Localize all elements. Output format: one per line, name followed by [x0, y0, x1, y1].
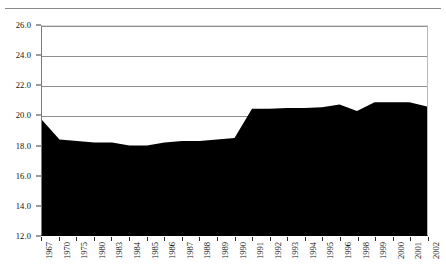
x-tick-label: 2000	[397, 242, 406, 259]
x-tick-mark	[199, 237, 200, 241]
x-tick-mark	[59, 237, 60, 241]
x-tick-label: 1995	[326, 242, 335, 259]
y-tick-label: 18.0	[16, 141, 31, 150]
y-tick-label: 14.0	[16, 201, 31, 210]
x-tick-label: 1998	[362, 242, 371, 259]
x-tick-mark	[287, 237, 288, 241]
x-tick-mark	[76, 237, 77, 241]
y-tick-label: 20.0	[16, 111, 31, 120]
x-tick-mark	[410, 237, 411, 241]
x-tick-label: 1984	[133, 242, 142, 259]
x-tick-label: 1987	[186, 242, 195, 259]
x-tick-mark	[322, 237, 323, 241]
x-tick-label: 1992	[274, 242, 283, 259]
x-tick-label: 1988	[203, 242, 212, 259]
x-tick-mark	[393, 237, 394, 241]
x-tick-mark	[270, 237, 271, 241]
x-tick-label: 1985	[151, 242, 160, 259]
x-tick-label: 1986	[168, 242, 177, 259]
y-tick-label: 22.0	[16, 81, 31, 90]
x-tick-label: 1967	[45, 242, 54, 259]
x-tick-mark	[129, 237, 130, 241]
x-tick-mark	[182, 237, 183, 241]
x-tick-mark	[375, 237, 376, 241]
x-tick-label: 1983	[115, 242, 124, 259]
x-tick-label: 1993	[291, 242, 300, 259]
x-tick-mark	[428, 237, 429, 241]
x-tick-label: 1991	[256, 242, 265, 259]
x-tick-mark	[164, 237, 165, 241]
x-tick-label: 1996	[344, 242, 353, 259]
x-tick-mark	[305, 237, 306, 241]
x-tick-mark	[340, 237, 341, 241]
y-tick-label: 12.0	[16, 232, 31, 241]
x-tick-label: 2001	[414, 242, 423, 259]
x-tick-label: 2002	[432, 242, 441, 259]
x-tick-mark	[217, 237, 218, 241]
y-axis: 12.014.016.018.020.022.024.026.0	[0, 25, 38, 236]
x-tick-label: 1999	[379, 242, 388, 259]
x-tick-mark	[94, 237, 95, 241]
x-tick-mark	[358, 237, 359, 241]
x-tick-label: 1994	[309, 242, 318, 259]
x-tick-mark	[147, 237, 148, 241]
y-tick-label: 26.0	[16, 21, 31, 30]
x-tick-label: 1975	[80, 242, 89, 259]
x-tick-label: 1970	[63, 242, 72, 259]
x-tick-mark	[111, 237, 112, 241]
x-tick-label: 1990	[239, 242, 248, 259]
top-divider-rule	[5, 8, 441, 9]
x-tick-mark	[252, 237, 253, 241]
x-tick-label: 1989	[221, 242, 230, 259]
x-tick-mark	[235, 237, 236, 241]
plot-area	[41, 25, 428, 236]
x-tick-mark	[41, 237, 42, 241]
y-tick-label: 16.0	[16, 171, 31, 180]
y-tick-label: 24.0	[16, 51, 31, 60]
chart-container: 12.014.016.018.020.022.024.026.0 1967197…	[0, 0, 446, 280]
x-axis: 1967197019751980198319841985198619871988…	[41, 237, 428, 280]
x-tick-label: 1980	[98, 242, 107, 259]
area-series	[42, 26, 427, 235]
area-fill	[42, 102, 427, 235]
